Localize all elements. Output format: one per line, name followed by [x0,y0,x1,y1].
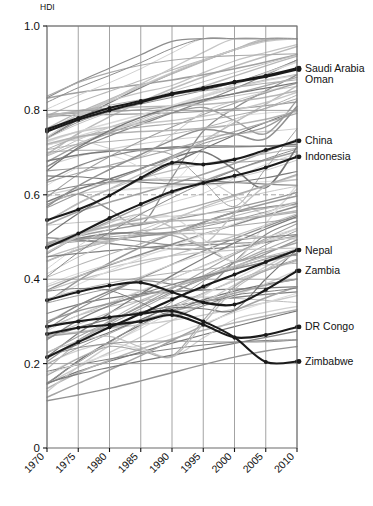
x-tick-label: 1975 [53,450,78,475]
series-point [264,165,268,169]
y-tick-label: 0.4 [24,273,41,285]
series-point [233,174,237,178]
series-point [233,157,237,161]
y-axis-title: HDI [40,2,55,12]
series-point [264,360,268,364]
y-tick-label: 1.0 [24,20,40,32]
series-point [170,189,174,193]
series-point [139,202,143,206]
series-point [233,81,237,85]
x-axis: 197019751980198519901995200020052010 [21,448,297,475]
series-point [76,232,80,236]
series-point [76,208,80,212]
x-tick-label: 2000 [209,450,234,475]
y-tick-label: 0.8 [24,104,40,116]
series-point [264,288,268,292]
series-point [233,335,237,339]
hdi-line-chart: 00.20.40.60.81.0HDI197019751980198519901… [0,0,373,506]
series-end-marker [297,248,302,253]
x-tick-label: 2010 [271,450,296,475]
series-end-marker [297,268,302,273]
x-tick-label: 1995 [178,450,203,475]
series-point [139,312,143,316]
series-point [108,108,112,112]
series-point [139,319,143,323]
series-point [170,290,174,294]
series-end-marker [297,138,302,143]
series-point [76,319,80,323]
series-point [108,315,112,319]
series-point [139,100,143,104]
series-point [201,181,205,185]
series-point [76,118,80,122]
series-point [170,298,174,302]
series-end-marker [297,154,302,159]
series-point [170,309,174,313]
chart-canvas: 00.20.40.60.81.0HDI197019751980198519901… [0,0,373,506]
x-tick-label: 1970 [21,450,46,475]
series-label-china: China [305,134,333,146]
series-point [170,161,174,165]
series-point [264,148,268,152]
series-point [139,176,143,180]
series-point [76,340,80,344]
x-tick-label: 1985 [115,450,140,475]
series-point [139,281,143,285]
series-point [264,260,268,264]
series-label-zambia: Zambia [305,264,340,276]
series-point [108,194,112,198]
series-point [108,216,112,220]
series-label-oman: Oman [305,73,334,85]
series-point [264,75,268,79]
series-point [233,273,237,277]
series-point [201,319,205,323]
series-labels: Saudi ArabiaOmanChinaIndonesiaNepalZambi… [297,62,365,367]
series-point [201,162,205,166]
series-point [264,333,268,337]
y-tick-label: 0.6 [24,189,40,201]
series-point [170,313,174,317]
series-label-zimbabwe: Zimbabwe [305,355,354,367]
series-label-indonesia: Indonesia [305,150,351,162]
series-point [170,92,174,96]
series-end-marker [297,67,302,72]
series-point [108,323,112,327]
x-tick-label: 2005 [240,450,265,475]
series-point [201,87,205,91]
x-tick-label: 1990 [146,450,171,475]
x-tick-label: 1980 [84,450,109,475]
series-point [108,284,112,288]
series-point [233,303,237,307]
series-end-marker [297,325,302,330]
y-tick-label: 0.2 [24,358,40,370]
series-point [201,300,205,304]
series-point [76,326,80,330]
series-point [201,284,205,288]
series-label-dr-congo: DR Congo [305,320,354,332]
series-end-marker [297,359,302,364]
series-label-nepal: Nepal [305,244,332,256]
series-point [76,290,80,294]
